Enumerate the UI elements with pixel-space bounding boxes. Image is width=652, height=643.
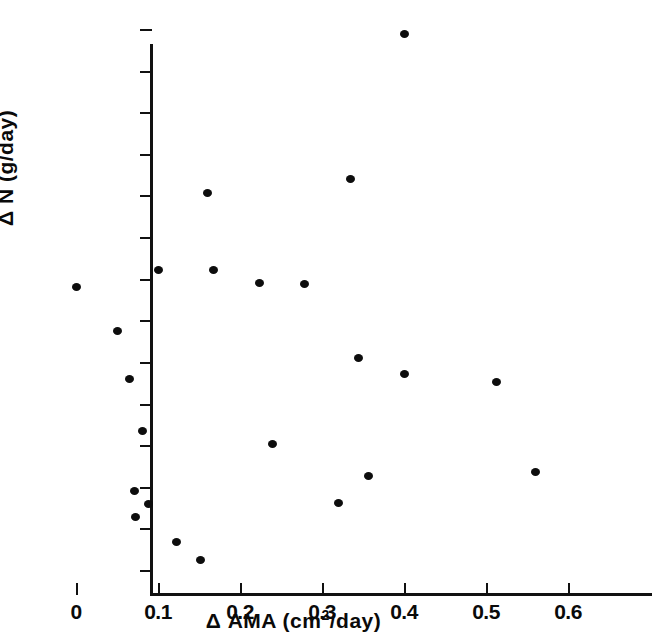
x-axis-title-suffix: /day) [330,609,382,632]
data-point [300,280,309,288]
y-axis-tick [140,487,152,489]
x-axis-tick [76,583,78,595]
x-axis-line [152,593,652,596]
y-axis-tick [140,237,152,239]
data-point [364,472,373,480]
x-axis-tick [158,583,160,595]
x-axis-tick [240,583,242,595]
data-point [144,500,153,508]
data-point [531,468,540,476]
data-point [346,175,355,183]
y-axis-title: Δ N (g/day) [0,0,18,226]
y-axis-tick [140,320,152,322]
plot-area: 1211109876543210-1 00.10.20.30.40.50.6 [76,24,571,570]
y-axis-tick [140,71,152,73]
x-axis-tick [568,583,570,595]
y-axis-tick [140,29,152,31]
x-axis-title-prefix: Δ AMA (cm [206,609,322,632]
y-axis-tick [140,154,152,156]
data-point [130,487,139,495]
data-point [354,354,363,362]
x-axis-tick [322,583,324,595]
data-point [209,266,218,274]
data-point [196,556,205,564]
data-point [400,370,409,378]
data-point [138,427,147,435]
x-axis-tick [404,583,406,595]
x-axis-title-superscript: 2 [321,607,329,623]
y-axis-tick [140,362,152,364]
data-point [172,538,181,546]
data-point [334,499,343,507]
data-point [203,189,212,197]
data-point [125,375,134,383]
y-axis-tick [140,279,152,281]
data-point [113,327,122,335]
y-axis-tick [140,528,152,530]
data-point [268,440,277,448]
y-axis-tick [140,404,152,406]
y-axis-tick [140,112,152,114]
x-axis-tick [486,583,488,595]
data-point [154,266,163,274]
data-point [255,279,264,287]
data-point [131,513,140,521]
y-axis-tick [140,570,152,572]
y-axis-tick [140,195,152,197]
x-axis-title: Δ AMA (cm2/day) [0,607,587,633]
data-point [492,378,501,386]
data-point [400,30,409,38]
data-point [72,283,81,291]
y-axis-tick [140,445,152,447]
